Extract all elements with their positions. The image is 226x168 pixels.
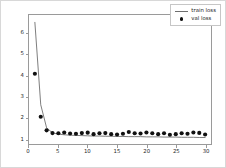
val-loss-point bbox=[144, 130, 148, 134]
x-tick-mark bbox=[87, 145, 88, 148]
x-tick-label: 20 bbox=[139, 149, 155, 154]
val-loss-point bbox=[80, 131, 84, 135]
val-loss-point bbox=[45, 128, 49, 132]
val-loss-point bbox=[133, 131, 137, 135]
y-tick-label: 1 bbox=[8, 137, 24, 142]
val-loss-point bbox=[62, 130, 66, 134]
legend-item-train-loss: train loss bbox=[174, 7, 216, 15]
val-loss-markers bbox=[33, 72, 207, 137]
y-tick-label: 6 bbox=[8, 30, 24, 35]
y-tick-label: 4 bbox=[8, 73, 24, 78]
val-loss-point bbox=[185, 132, 189, 136]
val-loss-point bbox=[33, 72, 37, 76]
x-tick-mark bbox=[28, 145, 29, 148]
y-tick-mark bbox=[26, 140, 29, 141]
legend-label-val-loss: val loss bbox=[191, 16, 211, 21]
val-loss-point bbox=[97, 131, 101, 135]
legend-dot-swatch-icon bbox=[174, 17, 188, 20]
x-tick-label: 0 bbox=[20, 149, 36, 154]
legend-label-train-loss: train loss bbox=[191, 8, 216, 13]
x-tick-label: 15 bbox=[109, 149, 125, 154]
x-tick-label: 10 bbox=[79, 149, 95, 154]
val-loss-point bbox=[103, 131, 107, 135]
legend-item-val-loss: val loss bbox=[174, 15, 216, 23]
y-tick-mark bbox=[26, 76, 29, 77]
val-loss-point bbox=[150, 131, 154, 135]
train-loss-line bbox=[35, 22, 205, 137]
chart-legend: train loss val loss bbox=[170, 4, 221, 26]
val-loss-point bbox=[156, 132, 160, 136]
val-loss-point bbox=[162, 131, 166, 135]
val-loss-point bbox=[74, 132, 78, 136]
y-tick-mark bbox=[26, 97, 29, 98]
val-loss-point bbox=[92, 132, 96, 136]
val-loss-point bbox=[127, 130, 131, 134]
val-loss-point bbox=[109, 132, 113, 136]
x-tick-mark bbox=[58, 145, 59, 148]
legend-line-swatch-icon bbox=[174, 11, 188, 12]
x-tick-mark bbox=[206, 145, 207, 148]
y-tick-mark bbox=[26, 118, 29, 119]
val-loss-point bbox=[203, 132, 207, 136]
y-tick-mark bbox=[26, 33, 29, 34]
plot-area bbox=[28, 14, 212, 145]
x-tick-label: 30 bbox=[198, 149, 214, 154]
x-tick-label: 25 bbox=[168, 149, 184, 154]
val-loss-point bbox=[138, 131, 142, 135]
val-loss-point bbox=[56, 131, 60, 135]
x-tick-mark bbox=[117, 145, 118, 148]
val-loss-point bbox=[39, 115, 43, 119]
val-loss-point bbox=[86, 131, 90, 135]
val-loss-point bbox=[191, 130, 195, 134]
x-tick-mark bbox=[147, 145, 148, 148]
y-tick-label: 5 bbox=[8, 52, 24, 57]
y-tick-label: 2 bbox=[8, 116, 24, 121]
val-loss-point bbox=[174, 132, 178, 136]
val-loss-point bbox=[180, 131, 184, 135]
y-tick-mark bbox=[26, 54, 29, 55]
val-loss-point bbox=[121, 132, 125, 136]
val-loss-point bbox=[50, 131, 54, 135]
val-loss-point bbox=[68, 131, 72, 135]
chart-svg bbox=[29, 15, 211, 144]
val-loss-point bbox=[115, 132, 119, 136]
val-loss-point bbox=[168, 133, 172, 137]
x-tick-mark bbox=[176, 145, 177, 148]
val-loss-point bbox=[197, 131, 201, 135]
x-tick-label: 5 bbox=[50, 149, 66, 154]
y-tick-label: 3 bbox=[8, 94, 24, 99]
figure-canvas: 123456 051015202530 train loss val loss bbox=[0, 0, 226, 168]
